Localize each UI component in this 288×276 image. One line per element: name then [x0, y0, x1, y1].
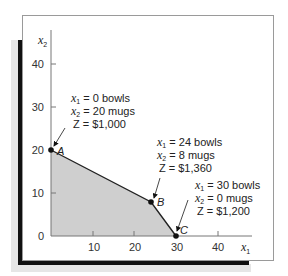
y-tick-label-10: 10	[32, 187, 44, 199]
annotation-c: x1 = 30 bowls x2 = 0 mugs Z = $1,200	[194, 178, 261, 217]
arrow-a	[54, 128, 65, 146]
annotation-a: x1 = 0 bowls x2 = 20 mugs Z = $1,000	[70, 91, 135, 130]
point-c-label: C	[180, 224, 188, 236]
point-a-label: A	[56, 145, 64, 157]
svg-text:x2 = 0 mugs: x2 = 0 mugs	[194, 191, 253, 205]
y-tick-label-30: 30	[32, 101, 44, 113]
y-tick-label-40: 40	[32, 58, 44, 70]
svg-text:x1 = 24 bowls: x1 = 24 bowls	[156, 135, 223, 149]
x-axis-label: x1	[240, 240, 250, 255]
feasible-region	[51, 150, 176, 236]
point-a-marker	[48, 147, 54, 153]
svg-text:Z = $1,200: Z = $1,200	[197, 205, 250, 217]
arrow-b	[154, 178, 160, 198]
point-b-label: B	[157, 196, 164, 208]
x-tick-label-20: 20	[129, 241, 141, 253]
svg-text:Z = $1,360: Z = $1,360	[159, 162, 212, 174]
annotation-b: x1 = 24 bowls x2 = 8 mugs Z = $1,360	[156, 135, 223, 174]
point-b-marker	[148, 199, 154, 205]
svg-text:x1 = 30 bowls: x1 = 30 bowls	[194, 178, 261, 192]
y-axis-label: x2	[37, 33, 47, 48]
x-tick-label-30: 30	[171, 241, 183, 253]
svg-text:x2 = 20 mugs: x2 = 20 mugs	[70, 104, 135, 118]
point-c-marker	[173, 233, 179, 239]
y-tick-label-0: 0	[38, 230, 44, 242]
x-tick-label-10: 10	[88, 241, 100, 253]
chart-plot: 40 30 20 10 0 10 20 30 40 x2 x1 A B C x1…	[0, 0, 288, 276]
x-tick-label-40: 40	[212, 241, 224, 253]
svg-text:Z = $1,000: Z = $1,000	[73, 118, 126, 130]
y-tick-label-20: 20	[32, 144, 44, 156]
svg-text:x1 = 0 bowls: x1 = 0 bowls	[70, 91, 131, 105]
svg-text:x2 = 8 mugs: x2 = 8 mugs	[156, 148, 215, 162]
